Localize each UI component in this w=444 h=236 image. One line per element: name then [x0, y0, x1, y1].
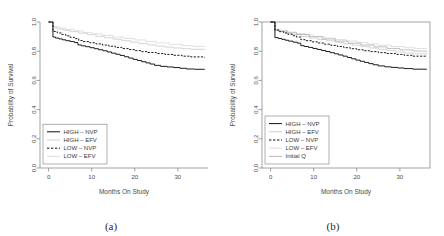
- legend-label: LOW – EFV: [286, 145, 318, 151]
- plot-area-b: 0.00.20.40.60.81.00102030Months On Study…: [222, 0, 444, 200]
- legend-label: HIGH – NVP: [64, 129, 98, 135]
- series-line: [49, 22, 205, 50]
- survival-chart-b: 0.00.20.40.60.81.00102030Months On Study…: [222, 0, 444, 200]
- x-tick-label: 10: [310, 174, 317, 180]
- y-tick-label: 1.0: [31, 17, 37, 26]
- legend-label: LOW – EFV: [64, 153, 96, 159]
- y-axis-title: Probability of Survival: [229, 63, 237, 126]
- y-tick-label: 0.2: [31, 134, 37, 143]
- legend-label: HIGH – EFV: [64, 137, 97, 143]
- y-tick-label: 0.8: [253, 46, 259, 55]
- y-tick-label: 0.0: [253, 163, 259, 172]
- x-tick-label: 20: [131, 174, 138, 180]
- x-tick-label: 0: [47, 174, 51, 180]
- x-tick-label: 30: [175, 174, 182, 180]
- legend-label: Initial Q: [286, 153, 307, 159]
- plot-area-a: 0.00.20.40.60.81.00102030Months On Study…: [0, 0, 222, 200]
- series-line: [271, 22, 427, 70]
- series-line: [49, 22, 205, 47]
- legend-label: HIGH – NVP: [286, 121, 320, 127]
- y-tick-label: 0.8: [31, 46, 37, 55]
- x-tick-label: 20: [353, 174, 360, 180]
- panel-caption-b: (b): [222, 220, 444, 232]
- survival-chart-a: 0.00.20.40.60.81.00102030Months On Study…: [0, 0, 222, 200]
- legend-label: HIGH – EFV: [286, 129, 319, 135]
- x-tick-label: 30: [397, 174, 404, 180]
- x-axis-title: Months On Study: [99, 188, 150, 196]
- y-tick-label: 0.0: [31, 163, 37, 172]
- y-tick-label: 1.0: [253, 17, 259, 26]
- y-axis-title: Probability of Survival: [7, 63, 15, 126]
- figure-two-panel-survival-plots: 0.00.20.40.60.81.00102030Months On Study…: [0, 0, 444, 236]
- x-axis-title: Months On Study: [321, 188, 372, 196]
- y-tick-label: 0.4: [253, 105, 259, 114]
- y-tick-label: 0.6: [253, 76, 259, 85]
- panel-a: 0.00.20.40.60.81.00102030Months On Study…: [0, 0, 222, 236]
- panel-caption-a: (a): [0, 220, 222, 232]
- x-tick-label: 10: [88, 174, 95, 180]
- y-tick-label: 0.2: [253, 134, 259, 143]
- x-tick-label: 0: [269, 174, 273, 180]
- y-tick-label: 0.6: [31, 76, 37, 85]
- legend-label: LOW – NVP: [64, 145, 97, 151]
- series-line: [271, 22, 427, 52]
- y-tick-label: 0.4: [31, 105, 37, 114]
- series-line: [49, 22, 205, 57]
- legend-label: LOW – NVP: [286, 137, 319, 143]
- panel-b: 0.00.20.40.60.81.00102030Months On Study…: [222, 0, 444, 236]
